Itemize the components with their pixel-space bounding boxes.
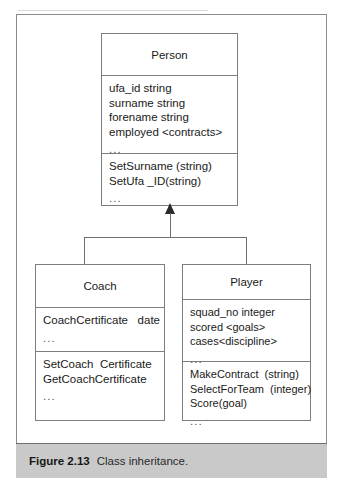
inheritance-drop-to-coach bbox=[84, 237, 85, 265]
attribute-row: scored <goals> bbox=[190, 320, 303, 335]
uml-class-coach-attributes: CoachCertificate date ... bbox=[36, 307, 164, 351]
uml-class-coach-operations: SetCoach Certificate GetCoachCertificate… bbox=[36, 351, 164, 410]
attribute-row: cases<discipline> bbox=[190, 334, 303, 349]
operation-row: SelectForTeam (integer) bbox=[190, 382, 303, 397]
attributes-ellipsis: ... bbox=[43, 328, 157, 346]
inheritance-drop-to-player bbox=[246, 237, 247, 265]
attribute-row: ufa_id string bbox=[109, 81, 230, 96]
figure-caption-bar: Figure 2.13 Class inheritance. bbox=[16, 443, 327, 478]
operations-ellipsis: ... bbox=[190, 411, 303, 429]
figure-caption-text: Class inheritance. bbox=[97, 455, 188, 467]
scan-artifact-line bbox=[18, 10, 208, 11]
attribute-row: surname string bbox=[109, 96, 230, 111]
uml-class-player-attributes: squad_no integer scored <goals> cases<di… bbox=[183, 299, 310, 361]
uml-class-coach-name: Coach bbox=[36, 265, 164, 307]
operation-row: SetCoach Certificate bbox=[43, 357, 157, 372]
operation-row: GetCoachCertificate bbox=[43, 372, 157, 387]
uml-class-player-name: Player bbox=[183, 265, 310, 299]
operation-row: SetSurname (string) bbox=[109, 159, 230, 174]
uml-class-coach[interactable]: Coach CoachCertificate date ... SetCoach… bbox=[35, 264, 165, 421]
figure-frame: Person ufa_id string surname string fore… bbox=[16, 14, 327, 478]
uml-class-player-operations: MakeContract (string) SelectForTeam (int… bbox=[183, 361, 310, 434]
uml-class-person[interactable]: Person ufa_id string surname string fore… bbox=[101, 33, 238, 206]
uml-class-player[interactable]: Player squad_no integer scored <goals> c… bbox=[182, 264, 311, 421]
attribute-row: forename string bbox=[109, 110, 230, 125]
uml-class-person-name: Person bbox=[102, 34, 237, 75]
inheritance-stem-line bbox=[170, 213, 171, 238]
attribute-row: CoachCertificate date bbox=[43, 313, 157, 328]
figure-caption-number: Figure 2.13 bbox=[29, 455, 90, 467]
operation-row: MakeContract (string) bbox=[190, 367, 303, 382]
operations-ellipsis: ... bbox=[43, 386, 157, 404]
attribute-row: employed <contracts> bbox=[109, 125, 230, 140]
inheritance-horizontal-bar bbox=[84, 237, 247, 238]
uml-class-person-attributes: ufa_id string surname string forename st… bbox=[102, 75, 237, 153]
attribute-row: squad_no integer bbox=[190, 305, 303, 320]
operation-row: Score(goal) bbox=[190, 396, 303, 411]
operation-row: SetUfa _ID(string) bbox=[109, 174, 230, 189]
